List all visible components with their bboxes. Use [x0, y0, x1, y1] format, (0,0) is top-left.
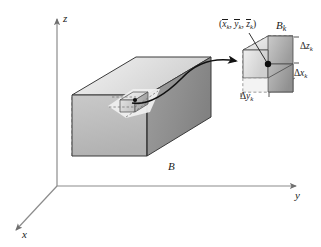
coord-x-sub: k	[226, 23, 229, 30]
delta-x-label: Δxk	[294, 69, 307, 80]
delta-z-sub: k	[310, 45, 313, 52]
magnified-box-label-base: B	[276, 19, 283, 31]
magnified-box-Bk	[241, 33, 299, 97]
sub-box-sample-point	[133, 98, 137, 102]
delta-z-label: Δzk	[300, 42, 313, 53]
magnified-bottom-left-face	[243, 78, 268, 92]
delta-y-sub: k	[250, 95, 253, 102]
main-box-label: B	[168, 161, 175, 172]
sub-box-left-face	[120, 100, 135, 112]
x-axis	[16, 186, 57, 230]
coord-y-bar: yk	[234, 20, 241, 31]
diagram-svg	[0, 0, 321, 247]
coord-y-sub: k	[238, 23, 241, 30]
magnified-front-left-face	[243, 50, 268, 78]
coord-z-sub: k	[250, 23, 253, 30]
magnified-box-label-sub: k	[283, 24, 287, 33]
magnified-back-right-face	[268, 36, 293, 64]
coord-close-paren: )	[253, 19, 256, 29]
sample-point-coordinates-label: (xk, yk, zk)	[219, 20, 256, 31]
magnified-box-label: Bk	[276, 20, 286, 33]
x-axis-label: x	[22, 229, 27, 240]
magnified-sample-point	[265, 61, 271, 67]
coord-z-bar: zk	[246, 20, 253, 31]
z-axis-label: z	[63, 13, 67, 24]
delta-y-label: Δyk	[240, 92, 253, 103]
coord-x-bar: xk	[222, 20, 229, 31]
y-axis-label: y	[295, 190, 300, 201]
figure-canvas: z y x B Bk (xk, yk, zk) Δzk Δxk Δyk	[0, 0, 321, 247]
delta-x-sub: k	[304, 72, 307, 79]
